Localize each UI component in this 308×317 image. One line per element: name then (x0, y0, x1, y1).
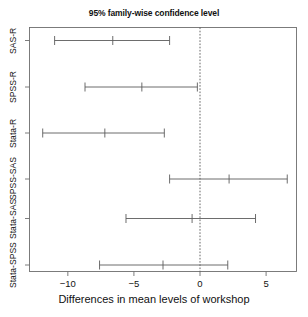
plot-frame (30, 28, 297, 272)
confidence-interval-stata-spss (100, 261, 228, 270)
confidence-interval-sas-r (55, 36, 170, 45)
x-axis-tick-label: 0 (197, 278, 202, 289)
x-axis-title: Differences in mean levels of workshop (0, 293, 308, 305)
confidence-interval-stata-sas (126, 214, 256, 223)
x-axis-tick-label: 5 (263, 278, 268, 289)
x-axis-tick-label: −5 (128, 278, 139, 289)
confidence-interval-spss-r (85, 83, 197, 92)
x-axis-tick-label: −10 (60, 278, 76, 289)
y-axis-category-label: Stata-SPSS (8, 231, 18, 299)
tukey-hsd-plot: 95% family-wise confidence level −10−505… (0, 0, 308, 317)
plot-canvas (0, 0, 308, 317)
confidence-interval-stata-r (43, 129, 165, 138)
confidence-interval-spss-sas (170, 175, 288, 184)
